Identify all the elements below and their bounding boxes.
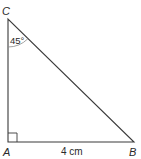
triangle-diagram: C A B 45° 4 cm (0, 0, 141, 159)
right-angle-marker (8, 133, 17, 142)
vertex-label-c: C (2, 5, 10, 17)
triangle-abc (8, 19, 134, 142)
angle-label-45: 45° (10, 35, 25, 46)
vertex-label-b: B (129, 146, 136, 158)
vertex-label-a: A (2, 146, 10, 158)
side-label-ab: 4 cm (61, 146, 83, 157)
